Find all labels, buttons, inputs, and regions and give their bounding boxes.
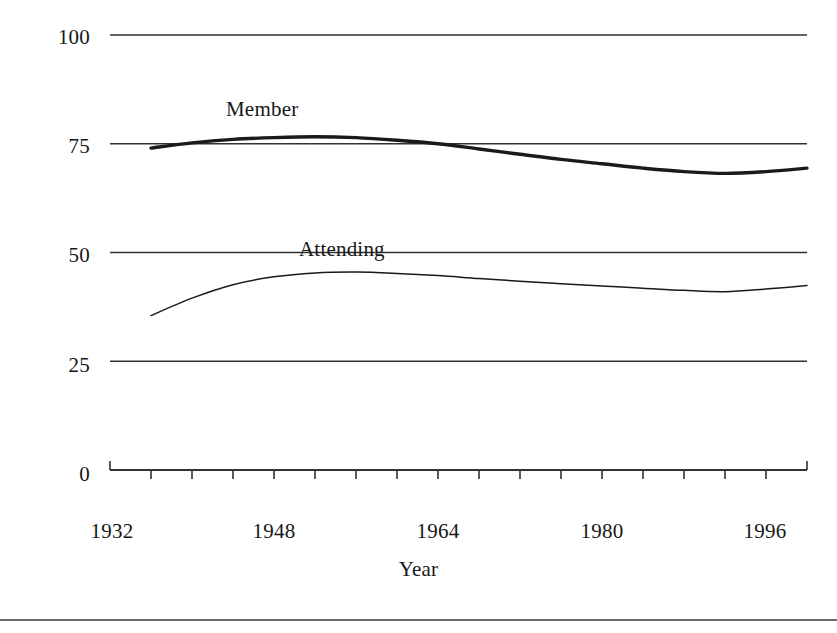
x-tick-label-1948: 1948 (230, 521, 318, 542)
y-tick-label-25: 25 (24, 355, 90, 376)
series-line-attending (151, 272, 807, 316)
x-tick-label-1964: 1964 (394, 521, 482, 542)
x-tick-label-1996: 1996 (721, 521, 809, 542)
chart-figure: 100 75 50 25 0 1932 1948 1964 1980 1996 … (0, 0, 837, 633)
y-tick-label-100: 100 (24, 27, 90, 48)
series-lines-group (0, 137, 837, 620)
y-tick-label-75: 75 (24, 136, 90, 157)
y-tick-label-0: 0 (24, 464, 90, 485)
series-annotation-attending: Attending (299, 239, 385, 260)
x-axis-group (110, 461, 807, 479)
series-line-member (151, 137, 807, 174)
x-tick-label-1932: 1932 (68, 521, 156, 542)
x-axis-title: Year (0, 559, 837, 580)
y-axis-title: Percentage (4, 196, 34, 346)
series-annotation-member: Member (226, 99, 298, 120)
x-tick-label-1980: 1980 (558, 521, 646, 542)
gridlines-group (110, 35, 807, 361)
